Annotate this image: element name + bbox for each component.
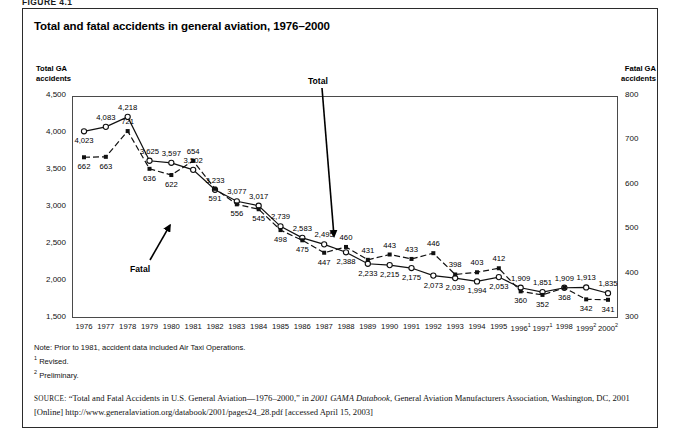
x-tick-label: 1981 [185,322,202,331]
footnote-2-text: Preliminary. [39,370,79,379]
annotation-arrows [72,96,618,318]
x-tick-label: 1998 [556,322,573,331]
right-axis-caption-line2: accidents [621,74,656,84]
source-text-1: “Total and Fatal Accidents in U.S. Gener… [69,393,311,403]
figure-notes: Note: Prior to 1981, accident data inclu… [34,342,245,381]
source-label: source: [34,395,66,403]
x-tick-label: 1988 [337,322,354,331]
y-tick-left: 2,500 [46,238,66,247]
x-axis-labels: 1976197719781979198019811982198319841985… [72,322,618,336]
figure-page: FIGURE 4.1 Total and fatal accidents in … [0,0,682,437]
page-title: Total and fatal accidents in general avi… [34,20,330,32]
x-tick-label: 1990 [381,322,398,331]
annotation-total: Total [308,76,328,86]
left-axis-caption: Total GA accidents [36,64,71,83]
note-line: Note: Prior to 1981, accident data inclu… [34,342,245,353]
y-tick-left: 2,000 [46,275,66,284]
source-italic-title: 2001 GAMA Databook [311,393,390,403]
footnote-2-marker: 2 [34,369,37,375]
y-tick-left: 3,500 [46,164,66,173]
x-tick-label: 1980 [163,322,180,331]
y-tick-right: 700 [625,134,638,143]
x-tick-label: 1983 [228,322,245,331]
y-tick-left: 4,000 [46,127,66,136]
x-tick-label: 1992 [425,322,442,331]
right-axis-caption: Fatal GA accidents [621,64,656,83]
y-tick-right: 600 [625,179,638,188]
footnote-1: 1 Revised. [34,353,245,367]
x-tick-label: 1982 [206,322,223,331]
source-citation: source: “Total and Fatal Accidents in U.… [34,392,630,418]
x-tick-label: 19992 [576,322,596,333]
right-axis-caption-line1: Fatal GA [621,64,656,74]
x-tick-label: 1995 [490,322,507,331]
y-tick-right: 300 [625,312,638,321]
y-tick-right: 400 [625,268,638,277]
footnote-2: 2 Preliminary. [34,367,245,381]
x-tick-label: 1979 [141,322,158,331]
x-tick-label: 19971 [532,322,552,333]
x-tick-label: 1991 [403,322,420,331]
y-tick-left: 1,500 [46,312,66,321]
x-tick-label: 1984 [250,322,267,331]
x-tick-label: 1977 [97,322,114,331]
footnote-1-marker: 1 [34,355,37,361]
x-tick-label: 1994 [468,322,485,331]
plot-area: 1,5002,0002,5003,0003,5004,0004,500 3004… [72,96,618,318]
x-tick-label: 1993 [447,322,464,331]
x-tick-label: 1986 [294,322,311,331]
figure-caption: FIGURE 4.1 [22,0,72,7]
x-tick-label: 1989 [359,322,376,331]
x-tick-label: 1987 [316,322,333,331]
x-tick-label: 1976 [75,322,92,331]
y-tick-left: 3,000 [46,201,66,210]
y-tick-left: 4,500 [46,90,66,99]
x-tick-label: 19961 [511,322,531,333]
x-tick-label: 1985 [272,322,289,331]
x-tick-label: 20002 [598,322,618,333]
footnote-1-text: Revised. [39,357,69,366]
y-tick-right: 800 [625,90,638,99]
left-axis-caption-line1: Total GA [36,64,71,74]
y-tick-right: 500 [625,223,638,232]
left-axis-caption-line2: accidents [36,74,71,84]
x-tick-label: 1978 [119,322,136,331]
